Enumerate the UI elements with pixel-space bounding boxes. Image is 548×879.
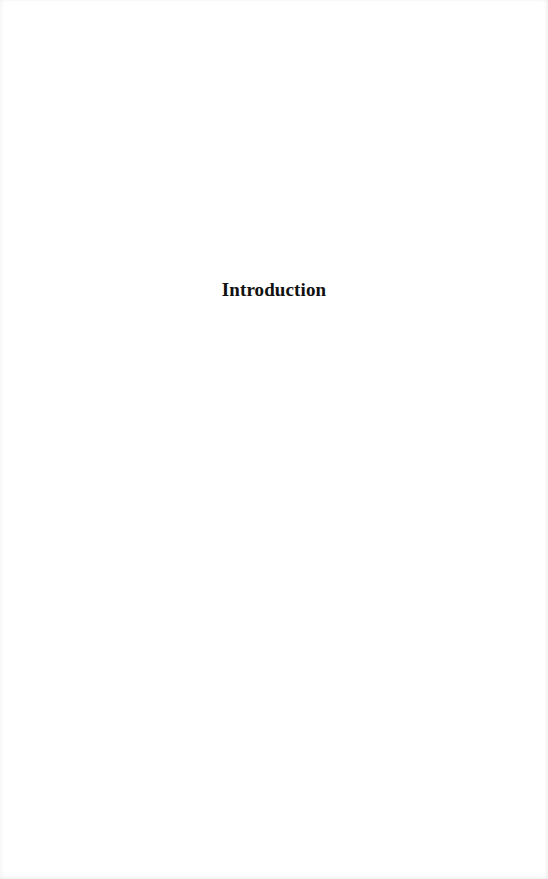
document-page: Introduction bbox=[0, 0, 548, 879]
section-heading: Introduction bbox=[0, 279, 548, 301]
